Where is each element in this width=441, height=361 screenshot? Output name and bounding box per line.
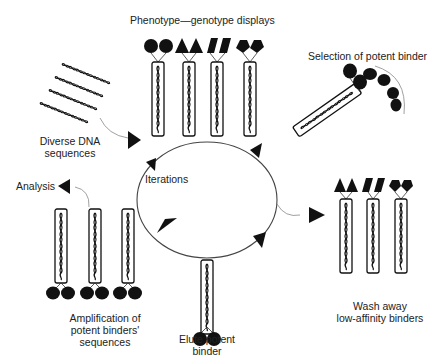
cycle-arrow-icon <box>253 232 266 248</box>
cycle-arrow-icon <box>157 218 177 233</box>
amplification-group <box>46 179 142 300</box>
display-library <box>144 38 264 136</box>
label-line: Diverse DNA <box>30 135 110 147</box>
arrow-left-icon <box>58 179 70 194</box>
label-line: Amplification of <box>50 312 160 324</box>
arrow-right-icon <box>309 207 325 223</box>
label-diverse: Diverse DNA sequences <box>30 135 110 159</box>
selection-binder <box>293 64 405 137</box>
label-elute: Elute potent binder <box>172 333 242 357</box>
label-line: binder <box>172 345 242 357</box>
label-iterations: Iterations <box>145 173 188 185</box>
label-selection: Selection of potent binder <box>308 50 427 62</box>
label-line: sequences <box>30 147 110 159</box>
iteration-cycle <box>137 142 277 258</box>
label-displays: Phenotype—genotype displays <box>130 14 275 26</box>
diagram-canvas: Phenotype—genotype displays Selection of… <box>0 0 441 361</box>
label-amplification: Amplification of potent binders' sequenc… <box>50 312 160 348</box>
label-analysis: Analysis <box>16 180 55 192</box>
label-line: potent binders' <box>50 324 160 336</box>
label-wash: Wash away low-affinity binders <box>320 300 440 324</box>
label-line: sequences <box>50 336 160 348</box>
label-line: low-affinity binders <box>320 312 440 324</box>
label-line: Elute potent <box>172 333 242 345</box>
wash-away-group <box>277 178 413 273</box>
arrow-right-icon <box>128 131 141 149</box>
label-line: Wash away <box>320 300 440 312</box>
